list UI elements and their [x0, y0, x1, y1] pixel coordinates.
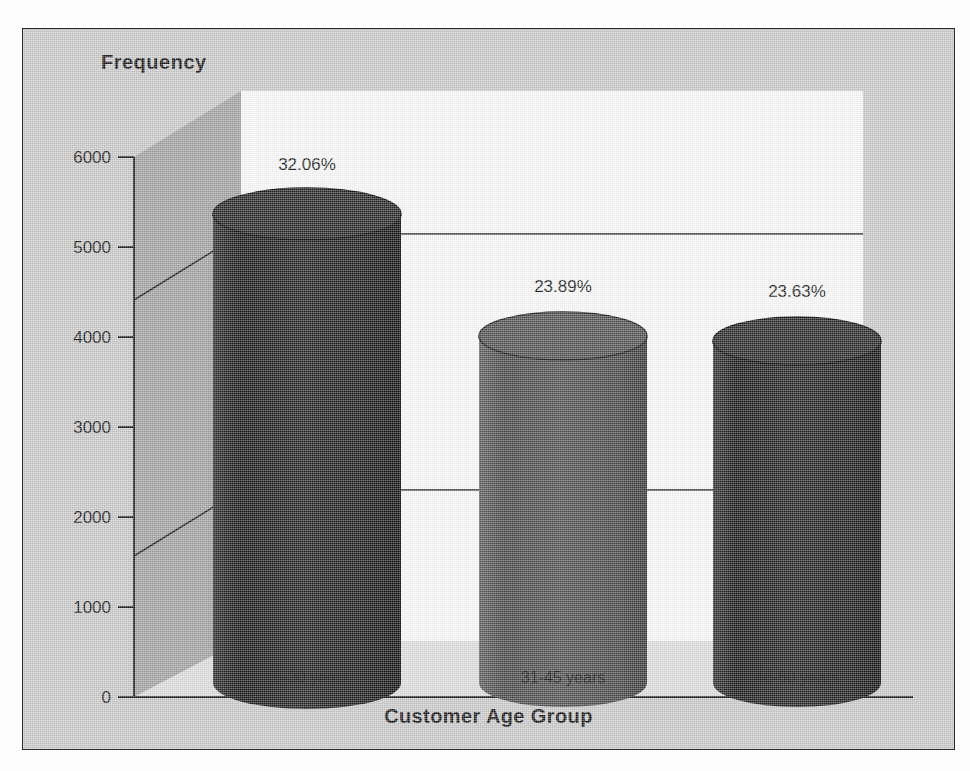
- data-label-0: 32.06%: [278, 155, 336, 175]
- x-axis-title: Customer Age Group: [23, 705, 954, 728]
- data-label-2: 23.63%: [768, 282, 826, 302]
- data-label-1: 23.89%: [534, 277, 592, 297]
- chart-frame: 6000 5000 4000 3000 2000 1000 0 32.06% 2…: [22, 28, 955, 750]
- bar-data-labels: 32.06% 23.89% 23.63%: [23, 29, 955, 750]
- y-axis-title: Frequency: [101, 51, 207, 74]
- chart-screenshot: 6000 5000 4000 3000 2000 1000 0 32.06% 2…: [0, 0, 970, 771]
